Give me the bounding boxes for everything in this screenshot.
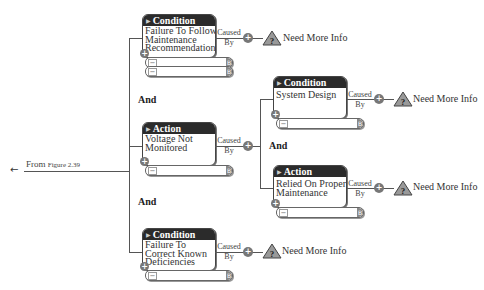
- card-line: System Design: [276, 91, 344, 100]
- svg-text:?: ?: [270, 249, 275, 259]
- expand-triangle-icon[interactable]: ▶: [277, 80, 282, 86]
- add-node-icon[interactable]: +: [374, 183, 384, 193]
- from-figure-ref: Figure 2.39: [48, 161, 80, 169]
- trunk-branch-1: [129, 38, 142, 39]
- input-row[interactable]: − B: [145, 66, 233, 77]
- card-line: Monitored: [145, 144, 213, 153]
- card-text: Voltage Not Monitored: [143, 134, 215, 152]
- trunk-branch-2: [129, 146, 142, 147]
- caused-by-label-3: Caused By: [216, 242, 242, 262]
- card-line: Maintenance: [276, 189, 344, 198]
- from-figure-label: From Figure 2.39: [26, 159, 80, 169]
- card-line: Recommendations: [145, 44, 213, 53]
- card-header: ▶Condition: [274, 77, 346, 88]
- caused-text: Caused: [347, 90, 373, 100]
- by-text: By: [347, 189, 373, 199]
- entry-arrow-icon: ←: [10, 164, 18, 175]
- condition-card-4[interactable]: ▶Condition System Design: [273, 76, 347, 119]
- collapse-minus-icon[interactable]: −: [148, 68, 157, 76]
- and-label-1: And: [138, 94, 156, 105]
- warning-triangle-icon: ?: [393, 180, 413, 196]
- row-cap-icon: B: [226, 271, 232, 280]
- row-cap-icon: B: [226, 166, 232, 175]
- need-more-info-1[interactable]: Need More Info: [283, 32, 347, 43]
- warning-triangle-icon: ?: [393, 91, 413, 107]
- action-card-5[interactable]: ▶Action Relied On Proper Maintenance: [273, 165, 347, 208]
- collapse-minus-icon[interactable]: −: [148, 272, 157, 280]
- warning-triangle-icon: ?: [262, 243, 282, 259]
- card-type: Condition: [284, 77, 327, 88]
- by-text: By: [216, 146, 242, 156]
- card-text: Failure To Correct Known Deficiencies: [143, 240, 215, 267]
- caused-text: Caused: [216, 28, 242, 38]
- expand-triangle-icon[interactable]: ▶: [146, 232, 151, 238]
- warning-triangle-icon: ?: [262, 30, 282, 46]
- need-more-info-4[interactable]: Need More Info: [413, 93, 477, 104]
- from-prefix: From: [26, 159, 46, 169]
- svg-text:?: ?: [270, 36, 275, 46]
- condition-card-1[interactable]: ▶Condition Failure To Follow Maintenance…: [142, 14, 216, 58]
- need-more-info-3[interactable]: Need More Info: [282, 245, 346, 256]
- expand-triangle-icon[interactable]: ▶: [146, 126, 151, 132]
- card-text: Relied On Proper Maintenance: [274, 177, 346, 197]
- by-text: By: [216, 38, 242, 48]
- expand-triangle-icon[interactable]: ▶: [277, 169, 282, 175]
- caused-text: Caused: [216, 242, 242, 252]
- caused-by-label-4: Caused By: [347, 90, 373, 110]
- expand-triangle-icon[interactable]: ▶: [146, 18, 151, 24]
- sub-trunk-vertical: [260, 99, 261, 188]
- collapse-minus-icon[interactable]: −: [279, 120, 288, 128]
- by-text: By: [216, 252, 242, 262]
- caused-by-label-2: Caused By: [216, 136, 242, 156]
- input-row[interactable]: − B: [276, 118, 364, 129]
- input-row[interactable]: − B: [276, 207, 364, 218]
- svg-text:?: ?: [401, 97, 406, 107]
- row-cap-icon: B: [357, 119, 363, 128]
- action-card-2[interactable]: ▶Action Voltage Not Monitored: [142, 122, 216, 166]
- caused-text: Caused: [216, 136, 242, 146]
- input-row[interactable]: − B: [145, 270, 233, 281]
- card-text: System Design: [274, 88, 346, 100]
- condition-card-3[interactable]: ▶Condition Failure To Correct Known Defi…: [142, 228, 216, 271]
- input-row[interactable]: − B: [145, 165, 233, 176]
- sub-branch-1: [260, 99, 273, 100]
- caused-by-label-1: Caused By: [216, 28, 242, 48]
- collapse-minus-icon[interactable]: −: [148, 167, 157, 175]
- add-node-icon[interactable]: +: [243, 141, 253, 151]
- card-type: Action: [284, 166, 312, 177]
- and-label-2: And: [138, 196, 156, 207]
- sub-branch-2: [260, 188, 273, 189]
- need-more-info-5[interactable]: Need More Info: [413, 181, 477, 192]
- by-text: By: [347, 100, 373, 110]
- row-cap-icon: B: [226, 67, 232, 76]
- row-cap-icon: B: [357, 208, 363, 217]
- caused-by-label-5: Caused By: [347, 179, 373, 199]
- card-line: Deficiencies: [145, 258, 213, 267]
- and-label-3: And: [269, 140, 287, 151]
- card-text: Failure To Follow Maintenance Recommenda…: [143, 26, 215, 53]
- trunk-vertical: [129, 38, 130, 252]
- add-node-icon[interactable]: +: [243, 247, 253, 257]
- caused-text: Caused: [347, 179, 373, 189]
- collapse-minus-icon[interactable]: −: [279, 209, 288, 217]
- add-node-icon[interactable]: +: [374, 94, 384, 104]
- entry-line: [24, 171, 130, 172]
- card-header: ▶Action: [274, 166, 346, 177]
- add-node-icon[interactable]: +: [243, 33, 253, 43]
- svg-text:?: ?: [401, 186, 406, 196]
- trunk-branch-3: [129, 252, 142, 253]
